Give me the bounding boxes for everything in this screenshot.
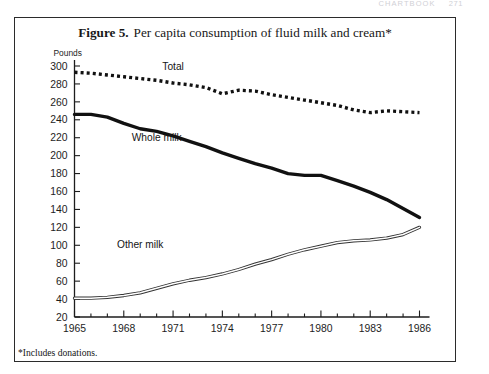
x-axis-tick-label: 1965 xyxy=(63,323,86,334)
line-chart: Pounds2040608010012014016018020022024026… xyxy=(15,18,457,363)
series-line-whole-milk xyxy=(75,114,420,217)
x-axis-tick-label: 1974 xyxy=(211,323,234,334)
x-axis-tick-label: 1986 xyxy=(408,323,431,334)
y-axis-tick-label: 280 xyxy=(50,79,68,90)
x-axis-tick-label: 1980 xyxy=(309,323,332,334)
x-axis-tick-label: 1968 xyxy=(112,323,135,334)
y-axis-tick-label: 240 xyxy=(50,114,68,125)
series-label-total: Total xyxy=(162,61,184,72)
y-axis-tick-label: 220 xyxy=(50,132,68,143)
series-line-other-milk xyxy=(75,227,420,298)
page-number: 271 xyxy=(449,0,463,8)
series-line-total xyxy=(75,72,420,112)
y-axis-tick-label: 60 xyxy=(56,276,68,287)
series-line-other-milk-inner xyxy=(75,227,420,298)
y-axis-unit-label: Pounds xyxy=(54,48,82,58)
y-axis-tick-label: 20 xyxy=(56,312,68,323)
y-axis-tick-label: 120 xyxy=(50,222,68,233)
running-head-text: CHARTBOOK xyxy=(378,0,435,8)
x-axis-tick-label: 1977 xyxy=(260,323,283,334)
series-label-other-milk: Other milk xyxy=(117,239,164,250)
series-label-whole-milk: Whole milk xyxy=(132,132,183,143)
y-axis-tick-label: 180 xyxy=(50,168,68,179)
y-axis-tick-label: 160 xyxy=(50,186,68,197)
y-axis-tick-label: 140 xyxy=(50,204,68,215)
y-axis-tick-label: 200 xyxy=(50,150,68,161)
y-axis-tick-label: 40 xyxy=(56,294,68,305)
chart-plot-area: Pounds2040608010012014016018020022024026… xyxy=(15,18,457,363)
page-running-head: CHARTBOOK271 xyxy=(378,0,463,8)
y-axis-tick-label: 100 xyxy=(50,240,68,251)
figure-box: Figure 5.Per capita consumption of fluid… xyxy=(14,17,456,362)
y-axis-tick-label: 260 xyxy=(50,97,68,108)
x-axis-tick-label: 1983 xyxy=(359,323,382,334)
y-axis-tick-label: 80 xyxy=(56,258,68,269)
x-axis-tick-label: 1971 xyxy=(162,323,185,334)
figure-footnote: *Includes donations. xyxy=(18,347,97,358)
y-axis-tick-label: 300 xyxy=(50,61,68,72)
